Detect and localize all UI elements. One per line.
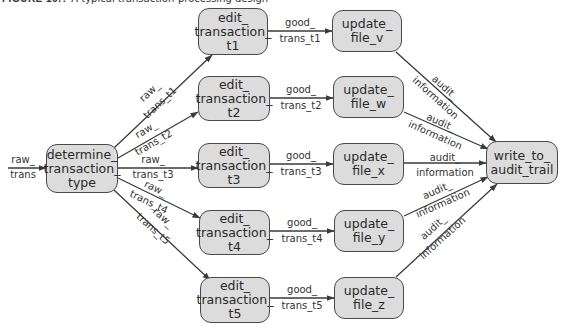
edge-label-good-trans-t3: good_ trans_t3 <box>273 150 329 178</box>
node-line: type <box>68 176 96 190</box>
node-line: update_ <box>344 284 394 298</box>
node-line: transaction_ <box>44 162 121 176</box>
node-update-file-v: update_ file_v <box>332 10 402 52</box>
node-edit-transaction-t2: edit_ transaction_ t2 <box>198 76 270 121</box>
label-line: trans_t3 <box>273 166 329 178</box>
node-line: edit_ <box>219 212 249 226</box>
node-line: t2 <box>228 106 241 120</box>
node-line: update_ <box>343 83 393 97</box>
label-line: trans_t5 <box>274 300 330 312</box>
label-line: raw_ <box>128 154 178 166</box>
node-update-file-x: update_ file_x <box>333 143 404 185</box>
node-edit-transaction-t5: edit_ transaction_ t5 <box>200 277 270 323</box>
node-line: transaction_ <box>196 226 273 240</box>
edge-label-audit-x: audit_ information <box>413 152 477 179</box>
node-write-to-audit-trail: write_to_ audit_trail <box>486 141 558 184</box>
label-line: trans <box>8 169 38 181</box>
edge-label-good-trans-t5: good_ trans_t5 <box>274 284 330 312</box>
node-line: audit_trail <box>491 163 554 177</box>
node-line: file_w <box>351 97 387 111</box>
node-line: edit_ <box>218 11 248 25</box>
label-line: trans_t1 <box>272 33 328 45</box>
node-line: t1 <box>227 39 240 53</box>
label-line: raw_ <box>8 154 38 166</box>
node-line: file_z <box>353 298 385 312</box>
node-line: transaction_ <box>197 293 274 307</box>
label-line: audit_ <box>413 152 477 164</box>
node-line: transaction_ <box>196 92 273 106</box>
node-line: transaction_ <box>195 25 272 39</box>
label-line: trans_t4 <box>274 233 330 245</box>
edge-label-good-trans-t4: good_ trans_t4 <box>274 217 330 245</box>
node-line: edit_ <box>219 78 249 92</box>
node-line: t4 <box>228 240 241 254</box>
node-line: update_ <box>342 17 392 31</box>
node-line: determine_ <box>47 148 118 162</box>
node-line: file_v <box>351 31 384 45</box>
node-line: t3 <box>228 173 241 187</box>
node-line: write_to_ <box>494 149 550 163</box>
node-edit-transaction-t4: edit_ transaction_ t4 <box>199 210 270 255</box>
node-line: edit_ <box>219 145 249 159</box>
label-line: good_ <box>273 84 329 96</box>
node-determine-transaction-type: determine_ transaction_ type <box>46 144 118 193</box>
edge-label-good-trans-t1: good_ trans_t1 <box>272 17 328 45</box>
edge-label-good-trans-t2: good_ trans_t2 <box>273 84 329 112</box>
node-edit-transaction-t3: edit_ transaction_ t3 <box>198 143 270 188</box>
label-line: information <box>413 167 477 179</box>
node-update-file-z: update_ file_z <box>334 277 404 319</box>
edge-label-raw-trans: raw_ trans <box>8 154 38 181</box>
label-line: good_ <box>273 150 329 162</box>
node-line: file_y <box>353 231 386 245</box>
node-line: transaction_ <box>196 159 273 173</box>
node-update-file-y: update_ file_y <box>334 210 404 252</box>
node-edit-transaction-t1: edit_ transaction_ t1 <box>198 8 268 55</box>
label-line: good_ <box>274 217 330 229</box>
node-line: update_ <box>343 150 393 164</box>
label-line: trans_t2 <box>273 100 329 112</box>
node-line: t5 <box>229 307 242 321</box>
node-line: edit_ <box>220 279 250 293</box>
label-line: good_ <box>272 17 328 29</box>
node-line: file_x <box>352 164 385 178</box>
node-line: update_ <box>344 217 394 231</box>
label-line: good_ <box>274 284 330 296</box>
node-update-file-w: update_ file_w <box>333 76 404 118</box>
